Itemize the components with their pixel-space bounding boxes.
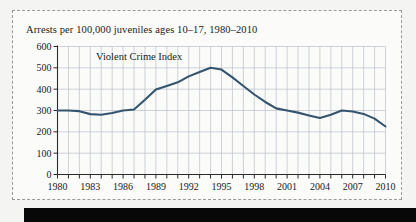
series-inline-label: Violent Crime Index <box>96 51 183 62</box>
y-tick-label: 500 <box>37 62 52 73</box>
y-tick-label: 100 <box>37 148 52 159</box>
x-tick-label: 2010 <box>376 181 396 192</box>
y-axis-tick-labels: 0100200300400500600 <box>37 41 52 180</box>
y-tick-label: 600 <box>37 41 52 52</box>
chart-figure: Arrests per 100,000 juveniles ages 10–17… <box>0 0 416 222</box>
y-tick-label: 0 <box>47 169 52 180</box>
x-axis-tick-labels: 1980198319861989199219951998200120042007… <box>48 181 396 192</box>
x-tick-label: 1998 <box>244 181 264 192</box>
x-tick-label: 1992 <box>179 181 199 192</box>
x-tick-label: 2007 <box>343 181 363 192</box>
x-tick-label: 2001 <box>277 181 297 192</box>
x-axis-tick-marks <box>58 175 386 179</box>
x-tick-label: 1986 <box>113 181 133 192</box>
x-tick-label: 1995 <box>212 181 232 192</box>
x-tick-label: 1989 <box>146 181 166 192</box>
x-tick-label: 1983 <box>80 181 100 192</box>
x-tick-label: 2004 <box>310 181 330 192</box>
scan-artifact-bar <box>24 208 416 222</box>
y-tick-label: 200 <box>37 126 52 137</box>
y-tick-label: 400 <box>37 84 52 95</box>
y-tick-label: 300 <box>37 105 52 116</box>
x-tick-label: 1980 <box>48 181 68 192</box>
line-chart-svg: 0100200300400500600 19801983198619891992… <box>0 0 416 222</box>
plot-area: 0100200300400500600 19801983198619891992… <box>0 0 416 222</box>
